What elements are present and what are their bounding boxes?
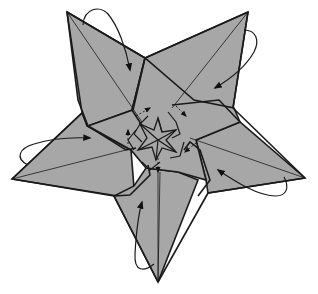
star-diagram-svg: [0, 0, 318, 294]
origami-diagram: [0, 0, 318, 294]
